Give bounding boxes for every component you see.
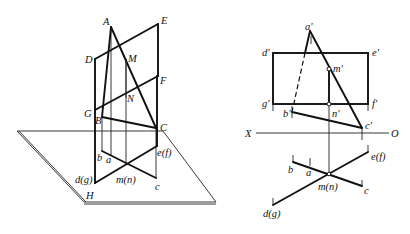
label-c: c bbox=[155, 181, 160, 192]
label-a-top: a bbox=[306, 167, 311, 178]
diagram-canvas: A E D M F G N B C b a d(g) m(n) e(f) c H… bbox=[0, 0, 410, 234]
label-b-prime: b' bbox=[283, 108, 291, 119]
label-N: N bbox=[126, 93, 135, 104]
left-pictorial-view: A E D M F G N B C b a d(g) m(n) e(f) c H bbox=[17, 15, 216, 204]
point-m-prime bbox=[327, 67, 331, 71]
label-O: O bbox=[391, 128, 399, 139]
label-c-top: c bbox=[364, 185, 369, 196]
label-D: D bbox=[84, 54, 93, 65]
label-B: B bbox=[95, 115, 102, 126]
label-G: G bbox=[84, 108, 92, 119]
label-ef: e(f) bbox=[157, 147, 172, 159]
label-A: A bbox=[102, 16, 110, 27]
label-M: M bbox=[127, 53, 138, 64]
label-e-prime: e' bbox=[372, 47, 380, 58]
front-rectangle bbox=[273, 53, 368, 111]
label-c-prime: c' bbox=[365, 120, 373, 131]
label-X: X bbox=[244, 128, 252, 139]
projection-diagram: A E D M F G N B C b a d(g) m(n) e(f) c H… bbox=[0, 0, 410, 234]
label-d-prime: d' bbox=[262, 47, 270, 58]
label-mn: m(n) bbox=[116, 174, 136, 186]
top-view bbox=[273, 145, 368, 205]
label-m-prime: m' bbox=[333, 63, 344, 74]
label-E: E bbox=[160, 15, 168, 26]
h-plane bbox=[17, 131, 216, 204]
label-b: b bbox=[97, 152, 102, 163]
label-n-prime: n' bbox=[332, 108, 340, 119]
label-a-prime: a' bbox=[305, 21, 313, 32]
label-ef-top: e(f) bbox=[371, 151, 386, 163]
label-b-top: b bbox=[288, 164, 293, 175]
triangle-abc bbox=[102, 27, 156, 128]
label-g-prime: g' bbox=[262, 98, 270, 109]
label-F: F bbox=[159, 75, 167, 86]
label-dg: d(g) bbox=[75, 174, 93, 186]
label-a: a bbox=[106, 154, 111, 165]
label-C: C bbox=[160, 122, 168, 133]
point-mn bbox=[327, 172, 331, 176]
label-H: H bbox=[85, 190, 95, 201]
right-orthographic-view: X O bbox=[244, 21, 399, 220]
label-f-prime: f' bbox=[372, 98, 378, 109]
label-mn-top: m(n) bbox=[318, 181, 338, 193]
point-n-prime bbox=[327, 102, 331, 106]
label-dg-top: d(g) bbox=[263, 208, 281, 220]
front-triangle bbox=[292, 31, 362, 140]
